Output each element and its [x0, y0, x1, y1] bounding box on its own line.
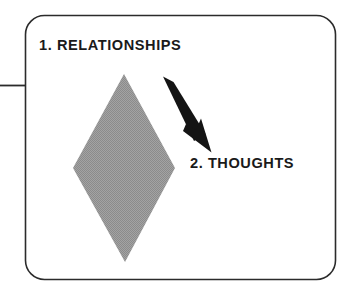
diagram-frame [26, 16, 336, 280]
label-step-1-relationships: 1. RELATIONSHIPS [39, 37, 181, 53]
label-step-2-thoughts: 2. THOUGHTS [190, 155, 294, 171]
figure-canvas: 1. RELATIONSHIPS 2. THOUGHTS [0, 0, 353, 294]
